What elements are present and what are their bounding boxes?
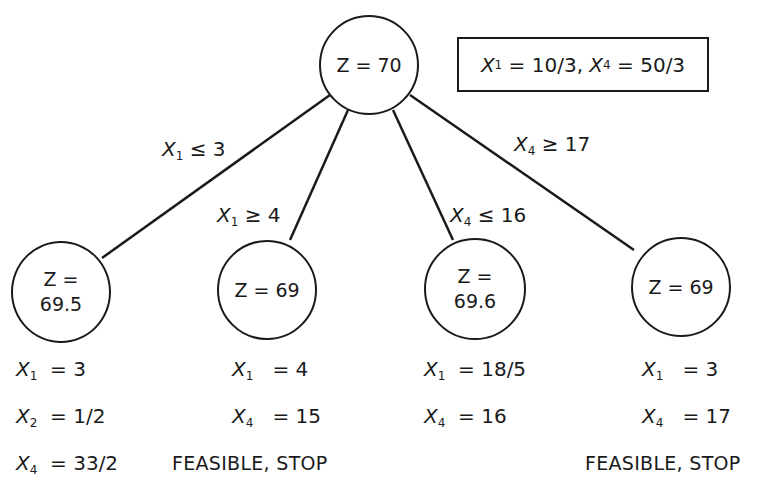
node-2-solution: X1 = 4 X4 = 15 FEASIBLE, STOP bbox=[172, 349, 328, 478]
node-3-solution: X1 = 18/5 X4 = 16 bbox=[424, 349, 526, 443]
node-2-status: FEASIBLE, STOP bbox=[172, 443, 328, 478]
root-node: Z = 70 bbox=[319, 15, 419, 115]
node-1: Z =69.5 bbox=[11, 241, 111, 343]
edge-root-node1 bbox=[102, 95, 330, 258]
root-solution-box: X1 = 10/3, X4 = 50/3 bbox=[457, 37, 709, 92]
branch-label-4: X4 ≥ 17 bbox=[514, 132, 590, 158]
node-1-solution: X1 = 3 X2 = 1/2 X4 = 33/2 bbox=[16, 349, 118, 478]
branch-label-2: X1 ≥ 4 bbox=[217, 203, 281, 229]
edge-root-node3 bbox=[393, 110, 453, 240]
branch-label-3: X4 ≤ 16 bbox=[450, 203, 526, 229]
node-4-status: FEASIBLE, STOP bbox=[585, 443, 741, 478]
root-node-label: Z = 70 bbox=[336, 53, 401, 78]
node-3: Z =69.6 bbox=[424, 238, 526, 340]
node-4: Z = 69 bbox=[631, 237, 731, 337]
branch-label-1: X1 ≤ 3 bbox=[162, 137, 226, 163]
node-2: Z = 69 bbox=[217, 240, 317, 340]
node-4-solution: X1 = 3 X4 = 17 FEASIBLE, STOP bbox=[585, 349, 741, 478]
edge-root-node2 bbox=[290, 110, 348, 240]
